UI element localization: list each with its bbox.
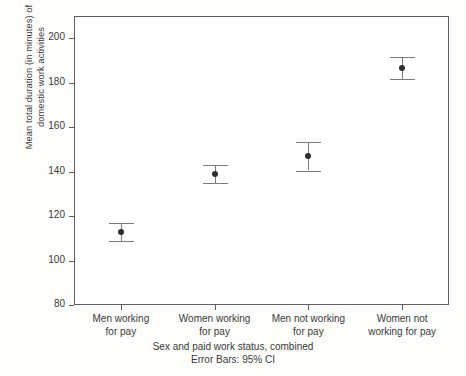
x-axis-tick-mark: [308, 305, 309, 310]
error-bar-cap-upper: [296, 142, 321, 143]
y-axis-tick-label: 180: [48, 76, 65, 87]
y-axis-tick: 180: [0, 83, 74, 84]
error-bar-note: Error Bars: 95% CI: [0, 353, 466, 366]
y-axis-tick-label: 140: [48, 165, 65, 176]
y-axis-tick: 80: [0, 305, 74, 306]
y-axis-tick: 200: [0, 38, 74, 39]
plot-area: [74, 16, 449, 305]
y-axis-tick-label: 160: [48, 120, 65, 131]
y-axis-tick: 120: [0, 216, 74, 217]
error-bar-cap-upper: [109, 223, 134, 224]
y-axis-tick-label: 100: [48, 254, 65, 265]
x-axis-title: Sex and paid work status, combined: [0, 340, 466, 353]
chart-container: Mean total duration (in minutes) of dome…: [0, 0, 466, 376]
error-bar-cap-lower: [203, 183, 228, 184]
y-axis-tick: 100: [0, 261, 74, 262]
error-bar-cap-lower: [109, 241, 134, 242]
x-axis-caption: Sex and paid work status, combined Error…: [0, 340, 466, 366]
error-bar-cap-lower: [296, 171, 321, 172]
y-axis-tick: 160: [0, 127, 74, 128]
y-axis-title-line-2: domestic work activities: [36, 27, 48, 127]
error-bar-cap-upper: [203, 165, 228, 166]
y-axis-tick-label: 120: [48, 209, 65, 220]
error-bar-cap-lower: [390, 79, 415, 80]
y-axis-tick-label: 200: [48, 31, 65, 42]
y-axis-tick-mark: [69, 305, 74, 306]
error-bar-cap-upper: [390, 57, 415, 58]
x-axis-tick-label: Women not working for pay: [347, 313, 457, 338]
x-axis-tick-mark: [402, 305, 403, 310]
y-axis-tick-label: 80: [54, 298, 65, 309]
x-axis-tick-mark: [215, 305, 216, 310]
y-axis-tick: 140: [0, 172, 74, 173]
mean-marker-dot: [118, 229, 124, 235]
x-axis-tick-mark: [121, 305, 122, 310]
mean-marker-dot: [212, 171, 218, 177]
